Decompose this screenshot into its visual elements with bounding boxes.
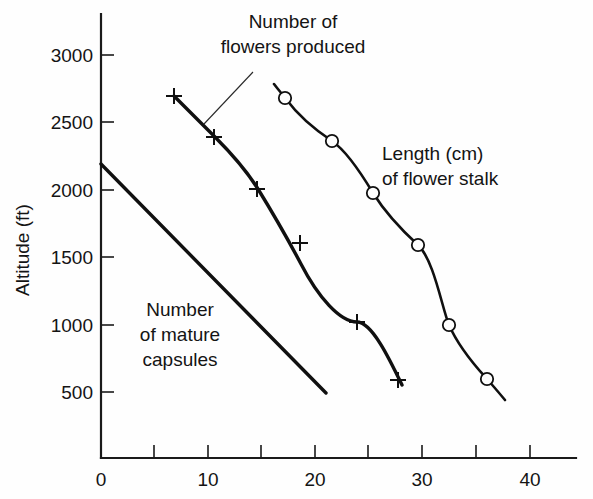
- flowers-produced-label-line1: Number of: [249, 11, 338, 32]
- flower-stalk-label-line2: of flower stalk: [382, 168, 499, 189]
- y-tick-label-2000: 2000: [51, 180, 93, 201]
- flowers-plus-marker-5: [349, 314, 365, 330]
- annotation-flowers-produced: Number of flowers produced: [221, 11, 366, 57]
- altitude-chart: 3000 2500 2000 1500 1000 500 0 10 20: [0, 0, 593, 499]
- flower-stalk-line: [274, 84, 505, 400]
- y-ticks-group: 3000 2500 2000 1500 1000 500: [51, 45, 114, 403]
- annotation-mature-capsules: Number of mature capsules: [140, 299, 220, 370]
- y-tick-label-1500: 1500: [51, 247, 93, 268]
- stalk-circle-marker-3: [367, 187, 379, 199]
- flowers-produced-label-line2: flowers produced: [221, 36, 366, 57]
- flowers-produced-leader-line: [204, 72, 253, 124]
- mature-capsules-label-line3: capsules: [143, 349, 218, 370]
- stalk-circle-marker-4: [412, 239, 424, 251]
- flowers-plus-marker-6: [390, 372, 406, 388]
- x-tick-label-0: 0: [96, 469, 107, 490]
- stalk-circle-marker-2: [326, 135, 338, 147]
- x-tick-label-10: 10: [197, 469, 218, 490]
- mature-capsules-label-line1: Number: [146, 299, 214, 320]
- x-ticks-group: 0 10 20 30 40: [96, 445, 541, 490]
- y-axis-title: Altitude (ft): [12, 204, 33, 296]
- x-tick-label-40: 40: [519, 469, 540, 490]
- stalk-circle-marker-6: [481, 373, 493, 385]
- y-tick-label-3000: 3000: [51, 45, 93, 66]
- stalk-circle-marker-5: [443, 319, 455, 331]
- chart-canvas: 3000 2500 2000 1500 1000 500 0 10 20: [0, 0, 593, 499]
- stalk-circle-marker-1: [279, 92, 291, 104]
- flower-stalk-label-line1: Length (cm): [382, 143, 483, 164]
- x-tick-label-30: 30: [411, 469, 432, 490]
- series-flower-stalk-length: [274, 84, 505, 400]
- y-tick-label-1000: 1000: [51, 315, 93, 336]
- mature-capsules-label-line2: of mature: [140, 324, 220, 345]
- annotation-flower-stalk: Length (cm) of flower stalk: [382, 143, 499, 189]
- y-tick-label-2500: 2500: [51, 112, 93, 133]
- y-tick-label-500: 500: [61, 382, 93, 403]
- x-tick-label-20: 20: [304, 469, 325, 490]
